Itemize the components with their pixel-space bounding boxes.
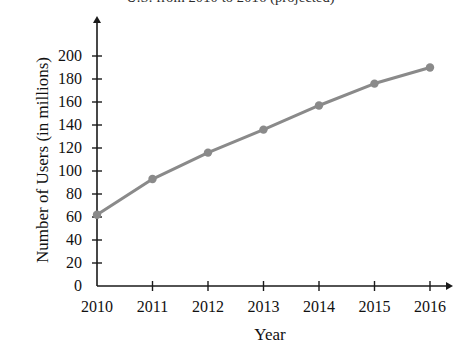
data-series-line [97, 68, 430, 215]
data-point-marker [426, 63, 434, 71]
data-point-marker [148, 175, 156, 183]
data-point-markers [93, 63, 434, 219]
data-point-marker [204, 148, 212, 156]
data-point-marker [259, 125, 267, 133]
plot-area [0, 0, 461, 357]
data-point-marker [315, 101, 323, 109]
data-point-marker [93, 211, 101, 219]
axis-lines [97, 22, 447, 286]
chart-figure: U.S. from 2010 to 2016 (projected) Numbe… [0, 0, 461, 357]
data-point-marker [370, 79, 378, 87]
